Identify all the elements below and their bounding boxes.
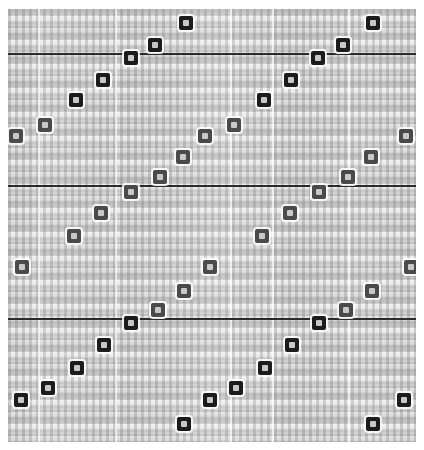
data-point-core: [370, 20, 376, 26]
data-point: [311, 51, 325, 65]
data-point-core: [368, 154, 374, 160]
data-point-core: [73, 97, 79, 103]
data-point: [67, 229, 81, 243]
data-point-core: [180, 154, 186, 160]
data-point: [179, 16, 193, 30]
reference-line-0: [8, 53, 416, 55]
data-point-core: [128, 55, 134, 61]
data-point: [365, 284, 379, 298]
data-point: [148, 38, 162, 52]
data-point-core: [403, 133, 409, 139]
data-point-core: [100, 77, 106, 83]
data-point-core: [231, 122, 237, 128]
data-point-core: [401, 397, 407, 403]
data-point: [227, 118, 241, 132]
data-point-core: [19, 264, 25, 270]
data-point-core: [288, 77, 294, 83]
data-point-core: [181, 288, 187, 294]
data-point: [15, 260, 29, 274]
data-point-core: [74, 365, 80, 371]
data-point: [229, 381, 243, 395]
data-point-core: [343, 307, 349, 313]
data-point: [14, 393, 28, 407]
data-point: [9, 129, 23, 143]
plot-area: [8, 9, 416, 442]
data-point-core: [45, 385, 51, 391]
margin-left: [0, 0, 8, 450]
data-point-core: [101, 342, 107, 348]
data-point: [96, 73, 110, 87]
vertical-gridline-2: [230, 9, 232, 442]
data-point: [364, 150, 378, 164]
data-point: [283, 206, 297, 220]
data-point: [38, 118, 52, 132]
data-point-core: [207, 264, 213, 270]
data-point-core: [13, 133, 19, 139]
data-point: [97, 338, 111, 352]
data-point-core: [261, 97, 267, 103]
data-point-core: [18, 397, 24, 403]
margin-bottom: [0, 442, 424, 450]
data-point-core: [315, 55, 321, 61]
data-point-core: [316, 320, 322, 326]
data-point-core: [262, 365, 268, 371]
data-point: [366, 417, 380, 431]
data-point: [153, 170, 167, 184]
data-point-core: [152, 42, 158, 48]
data-point: [257, 93, 271, 107]
data-point: [124, 185, 138, 199]
data-point-core: [259, 233, 265, 239]
data-point-core: [155, 307, 161, 313]
data-point: [70, 361, 84, 375]
data-point-core: [289, 342, 295, 348]
vertical-gridline-4: [348, 9, 350, 442]
vertical-gridline-3: [272, 9, 274, 442]
data-point: [312, 316, 326, 330]
data-point: [366, 16, 380, 30]
data-point-core: [345, 174, 351, 180]
data-point: [285, 338, 299, 352]
reference-line-2: [8, 318, 416, 320]
data-point-core: [233, 385, 239, 391]
data-point: [203, 260, 217, 274]
data-point: [151, 303, 165, 317]
data-point: [203, 393, 217, 407]
data-point: [336, 38, 350, 52]
data-point: [284, 73, 298, 87]
data-point: [258, 361, 272, 375]
data-point-core: [369, 288, 375, 294]
data-point-core: [128, 320, 134, 326]
data-point: [124, 316, 138, 330]
data-point: [255, 229, 269, 243]
data-point: [41, 381, 55, 395]
reference-line-1: [8, 185, 416, 187]
margin-right: [416, 0, 424, 450]
data-point-core: [128, 189, 134, 195]
margin-top: [0, 0, 424, 9]
data-point: [94, 206, 108, 220]
data-point-core: [340, 42, 346, 48]
data-point-core: [207, 397, 213, 403]
data-point: [312, 185, 326, 199]
data-point-core: [287, 210, 293, 216]
data-point-core: [370, 421, 376, 427]
data-point: [177, 284, 191, 298]
vertical-gridline-0: [38, 9, 40, 442]
data-point: [124, 51, 138, 65]
data-point-core: [202, 133, 208, 139]
data-point-core: [181, 421, 187, 427]
data-point: [397, 393, 411, 407]
figure-container: [0, 0, 424, 450]
data-point: [177, 417, 191, 431]
data-point-core: [408, 264, 414, 270]
data-point: [176, 150, 190, 164]
data-point-core: [98, 210, 104, 216]
data-point: [198, 129, 212, 143]
data-point: [69, 93, 83, 107]
background-vertical-gradient: [8, 9, 416, 442]
data-point: [341, 170, 355, 184]
vertical-gridline-1: [115, 9, 117, 442]
data-point-core: [316, 189, 322, 195]
data-point-core: [183, 20, 189, 26]
data-point: [404, 260, 416, 274]
